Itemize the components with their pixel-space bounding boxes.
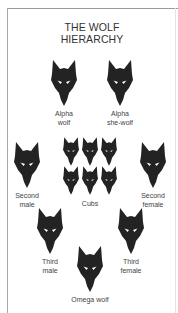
wolf-head-icon	[37, 208, 63, 254]
cub-wolf-icon	[82, 166, 98, 195]
wolf-head-icon	[51, 60, 77, 106]
wolf-head-icon	[118, 208, 144, 254]
wolf-head-icon	[140, 140, 166, 190]
cub-wolf-icon	[82, 137, 98, 166]
frame-top-border	[7, 8, 178, 9]
label-third-female: Third female	[106, 258, 156, 275]
label-alpha-she-wolf: Alpha she-wolf	[95, 110, 145, 127]
title-line-2: HIERARCHY	[8, 33, 176, 45]
diagram-title: THE WOLF HIERARCHY	[8, 21, 176, 45]
title-line-1: THE WOLF	[8, 21, 176, 33]
label-second-male: Second male	[2, 192, 52, 209]
wolf-head-icon	[77, 246, 103, 292]
cub-wolf-icon	[63, 166, 79, 195]
label-second-female: Second female	[128, 192, 178, 209]
label-third-male: Third male	[25, 258, 75, 275]
cub-wolf-icon	[101, 137, 117, 166]
label-cubs: Cubs	[65, 200, 115, 209]
cub-wolf-icon	[63, 137, 79, 166]
label-omega-wolf: Omega wolf	[55, 296, 125, 305]
label-alpha-wolf: Alpha wolf	[39, 110, 89, 127]
frame-left-border	[7, 8, 8, 313]
frame-right-border	[175, 8, 176, 313]
cub-wolf-icon	[101, 166, 117, 195]
wolf-head-icon	[107, 60, 133, 106]
wolf-head-icon	[14, 140, 40, 190]
